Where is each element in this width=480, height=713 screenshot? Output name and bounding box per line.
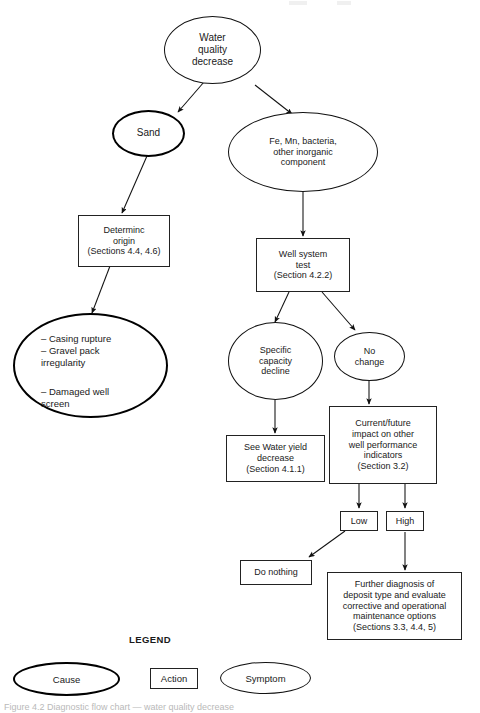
node-inorganic-components[interactable]: Fe, Mn, bacteria, other inorganic compon… (228, 112, 378, 192)
node-well-system-test[interactable]: Well system test (Section 4.2.2) (256, 238, 350, 292)
node-specific-capacity-decline[interactable]: Specific capacity decline (228, 322, 323, 400)
cause-line-3: – Damaged well screen (41, 386, 109, 409)
node-no-change[interactable]: No change (334, 332, 405, 381)
node-see-water-yield-decrease[interactable]: See Water yield decrease (Section 4.1.1) (226, 435, 325, 482)
node-do-nothing[interactable]: Do nothing (240, 560, 312, 585)
node-low[interactable]: Low (340, 511, 378, 531)
legend-cause: Cause (13, 662, 120, 696)
node-determine-origin[interactable]: Determinc origin (Sections 4.4, 4.6) (78, 215, 170, 267)
cause-line-2: – Gravel pack irregularity (41, 345, 100, 368)
legend-symptom: Symptom (220, 662, 311, 694)
flowchart-canvas: Water quality decrease Sand Fe, Mn, bact… (0, 0, 480, 713)
node-water-quality-decrease[interactable]: Water quality decrease (164, 16, 261, 84)
node-sand[interactable]: Sand (112, 110, 185, 157)
scan-artifact (289, 1, 307, 5)
scan-artifact (337, 1, 351, 5)
cause-line-1: – Casing rupture (41, 333, 111, 344)
legend-action-label: Action (161, 673, 187, 684)
node-current-future-impact[interactable]: Current/future impact on other well perf… (329, 406, 437, 484)
legend-action: Action (150, 668, 198, 689)
legend-title: LEGEND (0, 634, 300, 645)
node-cause-list[interactable]: – Casing rupture – Gravel pack irregular… (13, 313, 168, 418)
node-high[interactable]: High (386, 511, 424, 531)
legend-cause-label: Cause (53, 674, 80, 685)
node-further-diagnosis[interactable]: Further diagnosis of deposit type and ev… (327, 572, 462, 640)
figure-caption: Figure 4.2 Diagnostic flow chart — water… (4, 702, 334, 712)
legend-symptom-label: Symptom (245, 673, 285, 684)
